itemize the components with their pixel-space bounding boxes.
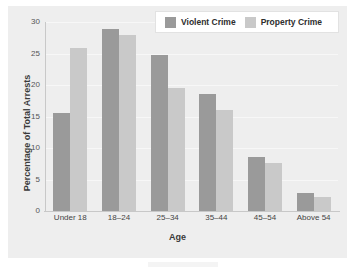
bar-violent-crime[interactable] <box>102 29 119 211</box>
x-axis-line <box>44 211 340 212</box>
bar-group <box>289 22 338 211</box>
x-axis-title: Age <box>0 232 355 242</box>
bar-violent-crime[interactable] <box>53 113 70 211</box>
legend-label: Property Crime <box>261 17 322 27</box>
bar-property-crime[interactable] <box>216 110 233 211</box>
legend-label: Violent Crime <box>181 17 236 27</box>
bar-violent-crime[interactable] <box>248 157 265 211</box>
x-axis-tick-label: 35–44 <box>192 213 241 222</box>
bar-group <box>143 22 192 211</box>
y-axis-title-holder: Percentage of Total Arrests <box>14 20 26 210</box>
x-axis-tick-label: 25–34 <box>143 213 192 222</box>
x-axis-tick-label: Under 18 <box>46 213 95 222</box>
legend-item-violent-crime[interactable]: Violent Crime <box>165 17 236 28</box>
x-axis-tick-label: 18–24 <box>95 213 144 222</box>
bar-group <box>95 22 144 211</box>
y-axis-title: Percentage of Total Arrests <box>22 48 32 218</box>
bar-violent-crime[interactable] <box>151 55 168 211</box>
bar-property-crime[interactable] <box>70 48 87 211</box>
x-axis-tick-label: 45–54 <box>241 213 290 222</box>
x-axis-tick-label: Above 54 <box>289 213 338 222</box>
bar-group <box>241 22 290 211</box>
bar-property-crime[interactable] <box>314 197 331 211</box>
chart-figure: 051015202530 Percentage of Total Arrests… <box>0 0 355 271</box>
bar-property-crime[interactable] <box>168 88 185 211</box>
chart-legend: Violent CrimeProperty Crime <box>155 11 339 33</box>
bar-violent-crime[interactable] <box>199 94 216 211</box>
bar-property-crime[interactable] <box>119 35 136 211</box>
legend-item-property-crime[interactable]: Property Crime <box>245 17 322 28</box>
legend-swatch-icon <box>165 17 176 28</box>
bar-violent-crime[interactable] <box>297 193 314 211</box>
bar-property-crime[interactable] <box>265 163 282 211</box>
bar-group <box>46 22 95 211</box>
page-artifact <box>148 262 218 267</box>
plot-area <box>46 22 338 211</box>
legend-swatch-icon <box>245 17 256 28</box>
bar-group <box>192 22 241 211</box>
